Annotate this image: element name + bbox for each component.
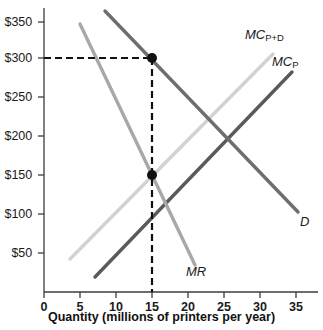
- y-tick-label-300: $300: [0, 51, 32, 65]
- monopoly-price-point: [147, 53, 157, 63]
- label-mc-p-plus-d-main: MC: [245, 27, 265, 42]
- label-demand: D: [300, 214, 309, 229]
- curve-marginal-revenue: [80, 24, 195, 265]
- y-tick-label-200: $200: [0, 129, 32, 143]
- label-mc-p-sub: P: [292, 59, 298, 70]
- y-tick-label-250: $250: [0, 90, 32, 104]
- x-axis-ticks: [44, 292, 296, 298]
- label-mc-p-plus-d-sub: P+D: [265, 32, 284, 43]
- chart-plot-area: [0, 0, 323, 330]
- y-axis-ticks: [38, 22, 44, 253]
- y-tick-label-150: $150: [0, 168, 32, 182]
- label-mc-p: MCP: [272, 54, 299, 69]
- x-axis-title: Quantity (millions of printers per year): [0, 310, 323, 324]
- label-mc-p-main: MC: [272, 54, 292, 69]
- economics-chart-figure: $350 $300 $250 $200 $150 $100 $50 0 5 10…: [0, 0, 323, 330]
- y-tick-label-350: $350: [0, 15, 32, 29]
- y-tick-label-100: $100: [0, 207, 32, 221]
- marginal-revenue-point: [147, 170, 157, 180]
- label-mc-p-plus-d: MCP+D: [245, 27, 284, 42]
- y-tick-label-50: $50: [0, 246, 32, 260]
- label-marginal-revenue: MR: [186, 264, 206, 279]
